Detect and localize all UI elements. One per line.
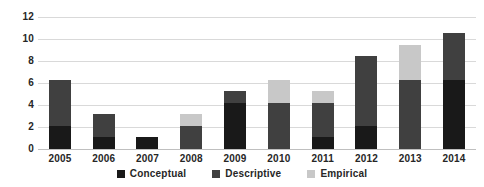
- bar-stack: [312, 91, 334, 149]
- y-axis-labels: 12 10 8 6 4 2 0: [0, 10, 34, 149]
- bar-segment: [312, 91, 334, 103]
- bar-segment: [136, 137, 158, 149]
- bar-column: [126, 10, 170, 149]
- bar-segment: [93, 114, 115, 137]
- legend-swatch-icon: [117, 170, 125, 178]
- y-axis-tick-label: 10: [0, 34, 34, 44]
- legend-swatch-icon: [307, 170, 315, 178]
- y-axis-tick-label: 12: [0, 12, 34, 22]
- bar-stack: [180, 114, 202, 149]
- bar-segment: [180, 126, 202, 149]
- bar-column: [432, 10, 476, 149]
- y-axis-tick-label: 6: [0, 78, 34, 88]
- y-axis-tick-label: 0: [0, 144, 34, 154]
- bars-container: [38, 10, 476, 149]
- y-axis-tick-label: 8: [0, 56, 34, 66]
- bar-segment: [399, 45, 421, 80]
- legend-item[interactable]: Descriptive: [212, 169, 281, 179]
- bar-segment: [443, 80, 465, 150]
- x-axis-labels: 2005200620072008200920102011201220132014: [38, 152, 476, 168]
- x-axis-tick-label: 2007: [126, 152, 170, 168]
- bar-column: [82, 10, 126, 149]
- x-axis-tick-label: 2011: [301, 152, 345, 168]
- plot-area: [38, 10, 476, 149]
- legend-label: Conceptual: [130, 169, 186, 179]
- bar-column: [388, 10, 432, 149]
- x-axis-tick-label: 2012: [345, 152, 389, 168]
- bar-stack: [224, 91, 246, 149]
- axis-baseline: [38, 149, 476, 150]
- bar-segment: [399, 80, 421, 150]
- bar-segment: [312, 137, 334, 149]
- bar-column: [213, 10, 257, 149]
- x-axis-tick-label: 2010: [257, 152, 301, 168]
- legend-swatch-icon: [212, 170, 220, 178]
- bar-column: [345, 10, 389, 149]
- bar-stack: [268, 80, 290, 149]
- y-axis-tick-label: 4: [0, 100, 34, 110]
- bar-segment: [355, 126, 377, 149]
- legend-label: Descriptive: [225, 169, 281, 179]
- bar-segment: [443, 33, 465, 79]
- bar-stack: [136, 137, 158, 149]
- bar-stack: [355, 56, 377, 149]
- bar-segment: [312, 103, 334, 138]
- x-axis-tick-label: 2013: [388, 152, 432, 168]
- bar-segment: [268, 103, 290, 149]
- bar-stack: [443, 33, 465, 149]
- bar-stack: [399, 45, 421, 149]
- x-axis-tick-label: 2005: [38, 152, 82, 168]
- x-axis-tick-label: 2006: [82, 152, 126, 168]
- bar-column: [257, 10, 301, 149]
- bar-segment: [49, 80, 71, 126]
- bar-segment: [224, 91, 246, 103]
- bar-segment: [49, 126, 71, 149]
- legend-item[interactable]: Conceptual: [117, 169, 186, 179]
- bar-segment: [224, 103, 246, 149]
- chart-legend: ConceptualDescriptiveEmpirical: [0, 169, 484, 179]
- bar-column: [301, 10, 345, 149]
- bar-segment: [268, 80, 290, 103]
- bar-stack: [49, 80, 71, 149]
- y-axis-tick-label: 2: [0, 122, 34, 132]
- legend-item[interactable]: Empirical: [307, 169, 367, 179]
- stacked-bar-chart: 12 10 8 6 4 2 0 200520062007200820092010…: [0, 0, 484, 187]
- x-axis-tick-label: 2008: [169, 152, 213, 168]
- x-axis-tick-label: 2009: [213, 152, 257, 168]
- bar-column: [38, 10, 82, 149]
- bar-stack: [93, 114, 115, 149]
- bar-segment: [180, 114, 202, 126]
- x-axis-tick-label: 2014: [432, 152, 476, 168]
- bar-segment: [93, 137, 115, 149]
- bar-segment: [355, 56, 377, 126]
- legend-label: Empirical: [320, 169, 367, 179]
- bar-column: [169, 10, 213, 149]
